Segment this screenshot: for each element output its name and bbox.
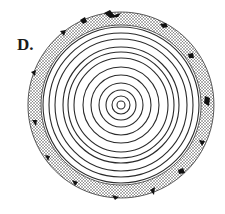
growth-rings [43, 27, 199, 183]
tree-ring-diagram [0, 0, 225, 214]
